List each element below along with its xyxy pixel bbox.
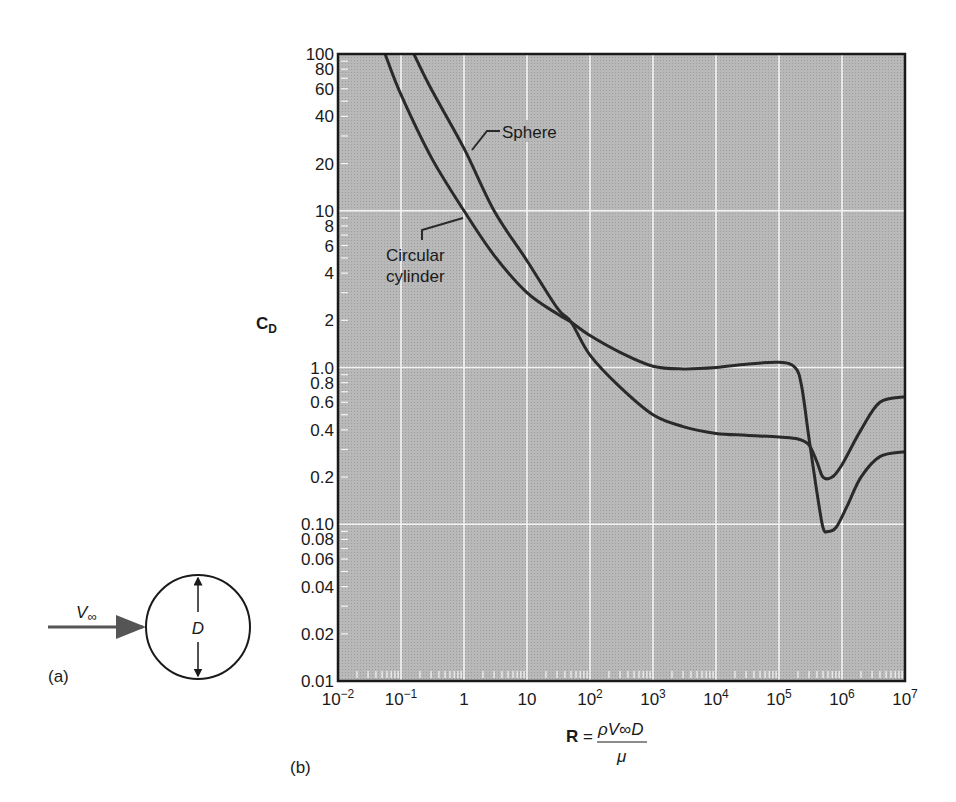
cylinder-label-line2: cylinder [386, 267, 445, 286]
x-tick-label: 103 [640, 687, 666, 709]
y-tick-label: 0.06 [301, 550, 334, 569]
y-tick-label: 0.08 [301, 530, 334, 549]
cylinder-label-line1: Circular [386, 246, 445, 265]
y-tick-label: 0.8 [310, 374, 334, 393]
y-tick-label: 40 [315, 107, 334, 126]
x-tick-label: 105 [766, 687, 792, 709]
x-tick-label: 104 [703, 687, 729, 709]
x-axis-title-lhs: R [566, 727, 578, 746]
panel-b-label: (b) [290, 758, 311, 777]
plot-area [338, 54, 905, 681]
x-tick-label: 106 [829, 687, 855, 709]
y-tick-label: 0.2 [310, 468, 334, 487]
x-axis-title-numerator: ρV∞D [597, 720, 643, 739]
y-tick-label: 8 [325, 217, 334, 236]
velocity-label: V∞ [76, 603, 97, 624]
x-tick-label: 10−1 [385, 687, 418, 709]
y-tick-label: 80 [315, 60, 334, 79]
sphere-label: Sphere [502, 123, 557, 142]
y-tick-label: 0.02 [301, 625, 334, 644]
y-tick-label: 6 [325, 237, 334, 256]
y-tick-label: 0.01 [301, 672, 334, 691]
x-axis-tick-labels: 10−210−1110102103104105106107 [322, 687, 918, 709]
y-tick-label: 4 [325, 264, 334, 283]
x-axis-title-equals: = [583, 727, 593, 746]
y-axis-tick-labels: 100806040201086421.00.80.60.40.20.100.08… [301, 45, 334, 691]
y-tick-label: 60 [315, 80, 334, 99]
panel-a-diagram: V∞ D (a) [48, 575, 250, 686]
y-tick-label: 0.04 [301, 578, 334, 597]
diameter-label: D [192, 619, 204, 638]
x-axis-title-denominator: μ [616, 747, 627, 766]
drag-coefficient-figure: V∞ D (a) Sphere Circular cylinder 100806… [0, 0, 956, 802]
x-axis-title: R = ρV∞D μ [566, 720, 647, 766]
x-tick-label: 107 [892, 687, 918, 709]
x-tick-label: 10−2 [322, 687, 355, 709]
x-tick-label: 102 [577, 687, 603, 709]
x-tick-label: 10 [518, 690, 537, 709]
panel-a-label: (a) [48, 667, 69, 686]
x-tick-label: 1 [459, 690, 468, 709]
y-tick-label: 2 [325, 311, 334, 330]
y-tick-label: 20 [315, 155, 334, 174]
y-tick-label: 0.6 [310, 393, 334, 412]
y-tick-label: 0.4 [310, 421, 334, 440]
y-axis-title: CD [256, 314, 277, 336]
